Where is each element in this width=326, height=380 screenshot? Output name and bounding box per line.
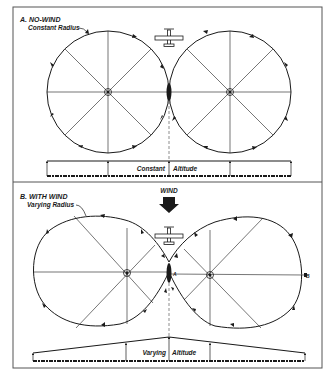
panel-b-radius-label: Varying Radius (27, 201, 74, 209)
left-lobe-pattern (33, 214, 169, 328)
altitude-indicator-a: Constant Altitude (47, 161, 291, 176)
airplane-icon (155, 29, 183, 47)
wind-arrow-icon (159, 197, 179, 213)
panel-a-title: A. NO-WIND (19, 16, 60, 23)
panel-b-title: B. WITH WIND (20, 193, 67, 200)
altitude-label-varying: Varying (142, 349, 166, 357)
altitude-label-altitude: Altitude (172, 165, 198, 172)
panel-b-with-wind: B. WITH WIND Varying Radius WIND (20, 187, 310, 361)
altitude-indicator-b: Varying Altitude (33, 337, 305, 361)
altitude-label-constant: Constant (137, 165, 166, 172)
panel-a-no-wind: A. NO-WIND Constant Radius (19, 16, 291, 176)
radius-leader-line (79, 28, 87, 32)
crossover-point-a (167, 263, 172, 283)
radius-leader-line (76, 205, 86, 216)
airplane-icon (155, 227, 183, 245)
point-b-label: B (306, 273, 310, 279)
right-circle-pattern (169, 30, 291, 153)
panel-a-radius-label: Constant Radius (28, 24, 80, 31)
altitude-label-altitude: Altitude (171, 349, 197, 356)
left-circle-pattern (47, 29, 169, 153)
right-lobe-pattern (169, 216, 305, 328)
wind-label: WIND (160, 187, 178, 194)
eights-on-pylons-diagram: A. NO-WIND Constant Radius (0, 0, 326, 380)
crossover-point (167, 83, 172, 101)
point-a-label: A (172, 271, 177, 277)
